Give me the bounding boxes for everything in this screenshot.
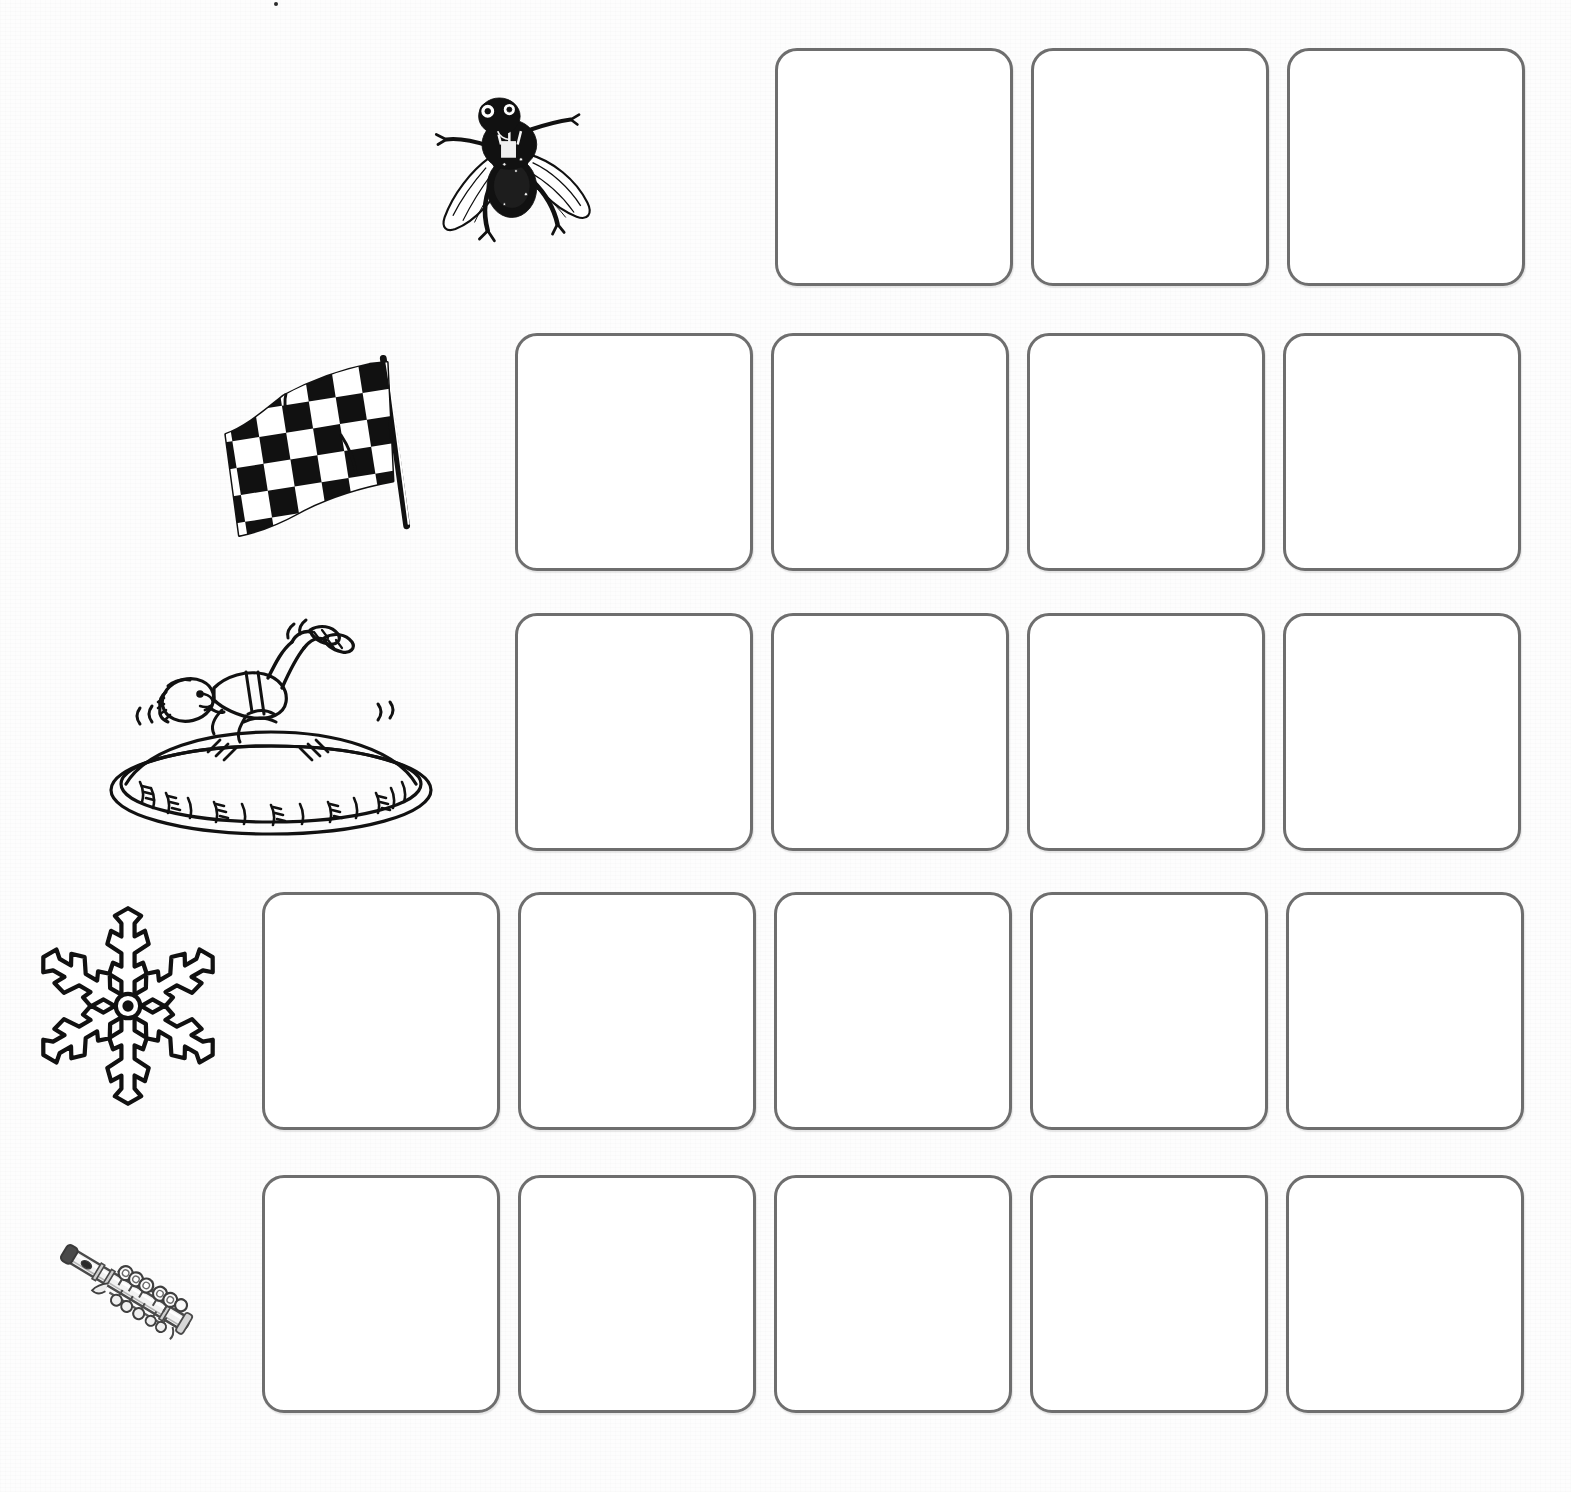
picture-cell-trampoline	[96, 616, 446, 842]
trampoline-boy-icon	[96, 616, 446, 842]
letter-box[interactable]	[262, 892, 500, 1130]
letter-box[interactable]	[771, 333, 1009, 571]
letter-box[interactable]	[1286, 892, 1524, 1130]
letter-box[interactable]	[262, 1175, 500, 1413]
letter-box[interactable]	[775, 48, 1013, 286]
scan-speck	[274, 2, 278, 6]
letter-box-row-3	[515, 613, 1521, 851]
picture-cell-flag	[216, 344, 430, 550]
letter-box[interactable]	[771, 613, 1009, 851]
letter-box[interactable]	[515, 613, 753, 851]
worksheet-page	[0, 0, 1571, 1492]
letter-box[interactable]	[518, 892, 756, 1130]
letter-box[interactable]	[1027, 613, 1265, 851]
snowflake-icon	[32, 912, 224, 1100]
letter-box[interactable]	[515, 333, 753, 571]
letter-box-row-2	[515, 333, 1521, 571]
letter-box[interactable]	[774, 1175, 1012, 1413]
picture-cell-fly	[428, 88, 594, 254]
letter-box-row-5	[262, 1175, 1524, 1413]
letter-box[interactable]	[1027, 333, 1265, 571]
letter-box[interactable]	[1283, 613, 1521, 851]
letter-box[interactable]	[1031, 48, 1269, 286]
flute-icon	[46, 1172, 206, 1412]
checkered-flag-icon	[216, 344, 430, 550]
picture-cell-flute	[46, 1172, 206, 1412]
letter-box-row-1	[775, 48, 1525, 286]
letter-box[interactable]	[1030, 1175, 1268, 1413]
letter-box[interactable]	[1287, 48, 1525, 286]
letter-box-row-4	[262, 892, 1524, 1130]
picture-cell-snowflake	[32, 912, 224, 1100]
letter-box[interactable]	[518, 1175, 756, 1413]
letter-box[interactable]	[774, 892, 1012, 1130]
letter-box[interactable]	[1286, 1175, 1524, 1413]
fly-icon	[428, 88, 594, 254]
letter-box[interactable]	[1283, 333, 1521, 571]
letter-box[interactable]	[1030, 892, 1268, 1130]
